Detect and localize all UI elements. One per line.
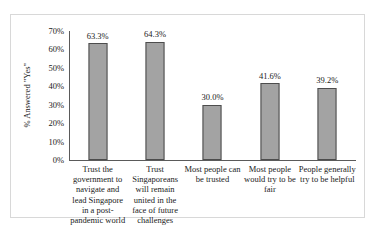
y-axis-title-text: % Answered "Yes" <box>23 63 32 128</box>
y-axis-tick-label: 50% <box>48 64 64 73</box>
y-axis-title: % Answered "Yes" <box>20 31 34 160</box>
category-label: Most people can be trusted <box>184 164 241 184</box>
bar-slot: 41.6% <box>241 31 298 160</box>
bar-slot: 63.3% <box>69 31 126 160</box>
bar[interactable] <box>260 83 279 160</box>
bar-value-label: 63.3% <box>87 32 109 41</box>
y-axis-tick-label: 40% <box>48 82 64 91</box>
category-label: Most people would try to be fair <box>241 164 298 195</box>
category-label: Trust Singaporeans will remain united in… <box>126 164 183 225</box>
category-label: People generally try to be helpful <box>299 164 356 184</box>
category-label: Trust the government to navigate and lea… <box>69 164 126 225</box>
y-axis-tick-label: 70% <box>48 27 64 36</box>
bar[interactable] <box>203 105 222 160</box>
x-axis-category-labels: Trust the government to navigate and lea… <box>69 164 356 219</box>
x-axis-line <box>69 160 356 161</box>
y-axis-tick-label: 30% <box>48 100 64 109</box>
bar-value-label: 39.2% <box>316 76 338 85</box>
y-axis-tick-label: 20% <box>48 119 64 128</box>
bar[interactable] <box>318 88 337 160</box>
y-axis-tick-label: 0% <box>53 156 64 165</box>
bar[interactable] <box>146 42 165 160</box>
bar-slot: 39.2% <box>299 31 356 160</box>
bar[interactable] <box>88 43 107 160</box>
bar-slot: 30.0% <box>184 31 241 160</box>
plot-area: 0%10%20%30%40%50%60%70% 63.3%64.3%30.0%4… <box>69 31 356 160</box>
y-axis-tick-label: 60% <box>48 45 64 54</box>
bar-value-label: 30.0% <box>202 93 224 102</box>
bar-value-label: 64.3% <box>144 30 166 39</box>
y-axis-tick-label: 10% <box>48 137 64 146</box>
bar-value-label: 41.6% <box>259 72 281 81</box>
chart-figure: % Answered "Yes" 0%10%20%30%40%50%60%70%… <box>10 14 365 218</box>
bar-slot: 64.3% <box>126 31 183 160</box>
